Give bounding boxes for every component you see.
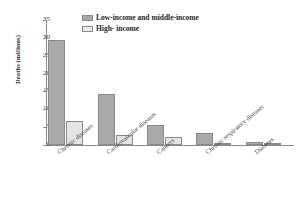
legend-item-low-income: Low-income and middle-income xyxy=(82,13,199,22)
bar-chart: Deaths (millions) 05101520253035 Chronic… xyxy=(0,0,304,219)
chart-legend: Low-income and middle-income High- incom… xyxy=(82,13,199,35)
bar xyxy=(48,40,65,145)
legend-swatch-icon xyxy=(82,15,93,21)
legend-label: Low-income and middle-income xyxy=(96,13,199,22)
bar xyxy=(98,94,115,145)
y-axis-tick-mark xyxy=(43,145,47,146)
bar-group xyxy=(98,20,133,145)
legend-swatch-icon xyxy=(82,26,93,32)
bar-group xyxy=(196,20,231,145)
bar-group xyxy=(48,20,83,145)
legend-label: High- income xyxy=(96,24,139,33)
bar-group xyxy=(147,20,182,145)
bar xyxy=(147,125,164,145)
legend-item-high-income: High- income xyxy=(82,24,199,33)
bar-group xyxy=(246,20,281,145)
y-axis-title: Deaths (millions) xyxy=(14,5,21,115)
